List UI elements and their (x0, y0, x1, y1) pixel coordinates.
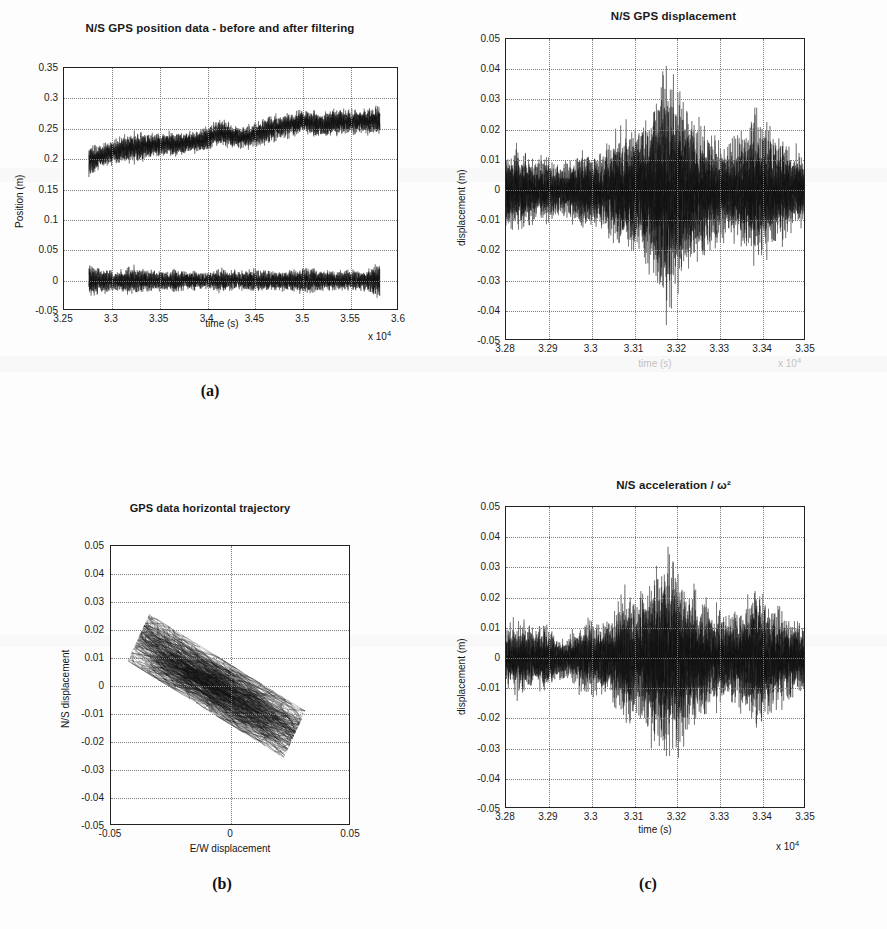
panel-c-xtick: 3.31 (624, 343, 643, 354)
subfigure-label-a: (a) (201, 382, 220, 400)
panel-c-x-exponent-power: 4 (797, 356, 801, 365)
panel-a-xtick: 3.6 (391, 313, 405, 324)
panel-b-xlabel: E/W displacement (190, 843, 271, 854)
panel-c-xlabel: time (s) (638, 358, 671, 369)
panel-a-plot-area (63, 67, 398, 310)
panel-b-ytick: 0.02 (62, 624, 104, 635)
panel-a-ytick: 0.35 (16, 62, 58, 73)
panel-b-ytick: 0.04 (62, 568, 104, 579)
panel-a: N/S GPS position data - before and after… (0, 0, 440, 420)
panel-a-ytick: 0 (16, 274, 58, 285)
panel-a-ytick: 0.3 (16, 92, 58, 103)
panel-c-ytick: -0.04 (458, 304, 500, 315)
panel-b-ytick: -0.04 (62, 792, 104, 803)
panel-b-xtick: -0.05 (99, 828, 122, 839)
panel-a-title: N/S GPS position data - before and after… (0, 22, 440, 34)
panel-c-ytick: 0.05 (458, 33, 500, 44)
panel-b-ytick: -0.02 (62, 736, 104, 747)
panel-a-xtick: 3.35 (149, 313, 168, 324)
panel-c-ytick: -0.03 (458, 274, 500, 285)
panel-a-ytick: -0.05 (16, 305, 58, 316)
panel-c-xtick: 3.29 (538, 343, 557, 354)
panel-c-traces (506, 39, 805, 340)
panel-a-ylabel: Position (m) (14, 175, 25, 228)
panel-d-xtick: 3.3 (584, 811, 598, 822)
panel-a-xtick: 3.45 (245, 313, 264, 324)
panel-d-ytick: 0.03 (458, 561, 500, 572)
panel-d-xtick: 3.33 (710, 811, 729, 822)
panel-c-xtick: 3.28 (495, 343, 514, 354)
figure-page: N/S GPS position data - before and after… (0, 0, 887, 929)
panel-b: GPS data horizontal trajectory 0.05 0.04… (0, 480, 440, 929)
panel-b-xtick: 0.05 (340, 828, 359, 839)
panel-c-ytick: -0.05 (458, 335, 500, 346)
panel-c-xtick: 3.34 (752, 343, 771, 354)
panel-d-x-exponent: x 104 (776, 839, 799, 852)
panel-d-xtick: 3.31 (624, 811, 643, 822)
panel-c-ylabel: displacement (m) (456, 169, 467, 246)
panel-a-ytick: 0.2 (16, 153, 58, 164)
panel-c-ytick: 0.04 (458, 63, 500, 74)
panel-d-title: N/S acceleration / ω² (480, 479, 867, 491)
panel-d-ytick: 0.02 (458, 591, 500, 602)
panel-a-xtick: 3.55 (340, 313, 359, 324)
panel-a-ytick: 0.25 (16, 122, 58, 133)
panel-d-xtick: 3.34 (752, 811, 771, 822)
subfigure-label-b: (b) (212, 875, 232, 893)
panel-b-title: GPS data horizontal trajectory (40, 502, 380, 514)
panel-d-traces (506, 507, 805, 808)
panel-d-ytick: 0.04 (458, 531, 500, 542)
panel-a-x-exponent-base: x 10 (368, 331, 387, 342)
panel-c-title: N/S GPS displacement (480, 10, 867, 22)
panel-c-x-exponent-base: x 10 (778, 358, 797, 369)
panel-d-xtick: 3.32 (667, 811, 686, 822)
subfigure-label-c: (c) (639, 875, 657, 893)
panel-a-x-exponent-power: 4 (387, 329, 391, 338)
panel-d-ytick: -0.05 (458, 803, 500, 814)
panel-d-x-exponent-power: 4 (795, 839, 799, 848)
panel-b-ytick: 0.03 (62, 596, 104, 607)
panel-c-xtick: 3.3 (584, 343, 598, 354)
panel-b-plot-area (110, 545, 350, 825)
panel-d-ytick: -0.03 (458, 742, 500, 753)
panel-c-xtick: 3.32 (667, 343, 686, 354)
panel-b-xtick: 0 (227, 828, 233, 839)
panel-a-xtick: 3.5 (295, 313, 309, 324)
panel-b-ytick: -0.03 (62, 764, 104, 775)
panel-a-x-exponent: x 104 (368, 329, 391, 342)
panel-c: N/S GPS displacement 0.05 0.04 0.03 0 (440, 0, 887, 400)
panel-b-ytick: 0.05 (62, 540, 104, 551)
panel-d-ytick: 0.01 (458, 621, 500, 632)
panel-b-ylabel: N/S displacement (60, 650, 71, 728)
panel-d-ytick: 0.05 (458, 501, 500, 512)
panel-c-ytick: 0.01 (458, 153, 500, 164)
panel-d-plot-area (505, 506, 805, 808)
panel-d-xtick: 3.29 (538, 811, 557, 822)
panel-c-x-exponent: x 104 (778, 356, 801, 369)
panel-d-xtick: 3.35 (795, 811, 814, 822)
panel-d-x-exponent-base: x 10 (776, 841, 795, 852)
panel-d-ytick: -0.04 (458, 772, 500, 783)
panel-c-ytick: 0.02 (458, 123, 500, 134)
panel-c-ytick: 0.03 (458, 93, 500, 104)
panel-a-xlabel: time (s) (205, 318, 238, 329)
panel-d-xtick: 3.28 (495, 811, 514, 822)
panel-b-traces (111, 546, 350, 825)
panel-a-ytick: 0.05 (16, 244, 58, 255)
panel-c-plot-area (505, 38, 805, 340)
panel-d-ylabel: displacement (m) (456, 638, 467, 715)
panel-a-xtick: 3.3 (104, 313, 118, 324)
panel-c-xtick: 3.33 (710, 343, 729, 354)
panel-a-traces (64, 68, 398, 310)
panel-c-xtick: 3.35 (795, 343, 814, 354)
panel-d-xlabel: time (s) (638, 824, 671, 835)
panel-d: N/S acceleration / ω² 0.05 0.04 0.03 (440, 465, 887, 929)
panel-a-xtick: 3.25 (53, 313, 72, 324)
